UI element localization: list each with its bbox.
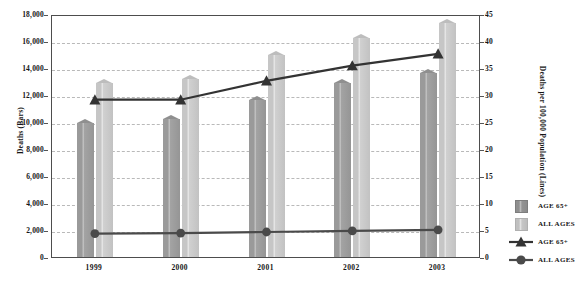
- legend-swatch-light-icon: [508, 216, 534, 232]
- bar[interactable]: [182, 75, 199, 257]
- bar[interactable]: [353, 34, 370, 257]
- legend-item-label: AGE 65+: [534, 238, 568, 246]
- legend-circle-marker-icon: [508, 252, 534, 268]
- y-left-tick-label: 2,000: [26, 227, 44, 235]
- legend-item-label: ALL AGES: [534, 220, 575, 228]
- bar-face: [439, 23, 456, 257]
- bar-group: [163, 16, 199, 257]
- swatch-square-icon: [515, 218, 528, 231]
- legend-item-label: AGE 65+: [534, 202, 568, 210]
- x-axis-labels: 19992000200120022003: [51, 263, 480, 277]
- plot-area: [51, 15, 480, 258]
- y-right-tick-label: 0: [485, 254, 489, 262]
- bar-face: [182, 79, 199, 257]
- bar[interactable]: [334, 79, 351, 257]
- y-right-tick-mark: [480, 177, 484, 178]
- y-left-tick-label: 12,000: [22, 92, 44, 100]
- y-axis-right-title: Deaths per 100,000 Population (Lines): [538, 42, 547, 222]
- legend-item[interactable]: ALL AGES: [508, 251, 584, 269]
- legend-triangle-marker-icon: [508, 234, 534, 250]
- y-left-tick-label: 8,000: [26, 146, 44, 154]
- y-right-tick-mark: [480, 15, 484, 16]
- legend-item[interactable]: AGE 65+: [508, 197, 584, 215]
- y-right-tick-label: 35: [485, 65, 493, 73]
- y-left-tick-label: 16,000: [22, 38, 44, 46]
- bar[interactable]: [163, 115, 180, 257]
- y-left-tick-label: 14,000: [22, 65, 44, 73]
- bar[interactable]: [96, 79, 113, 257]
- bar-group: [420, 16, 456, 257]
- y-left-tick-mark: [44, 96, 48, 97]
- chart-container: Deaths (Bars) Deaths per 100,000 Populat…: [0, 0, 584, 289]
- bar-group: [249, 16, 285, 257]
- x-axis-category-label: 2000: [171, 263, 188, 272]
- bar[interactable]: [268, 51, 285, 258]
- y-right-tick-mark: [480, 42, 484, 43]
- x-axis-category-label: 1999: [86, 263, 103, 272]
- x-axis-category-label: 2003: [429, 263, 446, 272]
- bar[interactable]: [439, 19, 456, 257]
- bar[interactable]: [77, 119, 94, 257]
- y-left-tick-mark: [44, 123, 48, 124]
- x-axis-category-label: 2001: [257, 263, 274, 272]
- triangle-line-icon: [508, 235, 534, 249]
- bar-face: [249, 100, 266, 257]
- y-left-tick-mark: [44, 231, 48, 232]
- bar-face: [268, 55, 285, 258]
- y-right-tick-mark: [480, 123, 484, 124]
- y-right-tick-mark: [480, 69, 484, 70]
- circle-line-icon: [508, 253, 534, 267]
- y-right-tick-label: 25: [485, 119, 493, 127]
- bar-face: [96, 83, 113, 257]
- y-left-tick-mark: [44, 42, 48, 43]
- y-left-tick-label: 18,000: [22, 11, 44, 19]
- y-right-tick-label: 45: [485, 11, 493, 19]
- y-right-tick-label: 30: [485, 92, 493, 100]
- legend-item[interactable]: AGE 65+: [508, 233, 584, 251]
- y-right-tick-label: 20: [485, 146, 493, 154]
- y-left-tick-mark: [44, 150, 48, 151]
- y-left-tick-mark: [44, 258, 48, 259]
- y-left-tick-label: 4,000: [26, 200, 44, 208]
- bar-face: [334, 83, 351, 257]
- y-right-tick-mark: [480, 96, 484, 97]
- bar-face: [353, 38, 370, 257]
- x-axis-category-label: 2002: [343, 263, 360, 272]
- bar-face: [77, 123, 94, 257]
- bar-face: [420, 73, 437, 257]
- legend-item[interactable]: ALL AGES: [508, 215, 584, 233]
- swatch-square-icon: [515, 200, 528, 213]
- y-left-tick-mark: [44, 15, 48, 16]
- bar-group: [77, 16, 113, 257]
- y-axis-left-ticks: 02,0004,0006,0008,00010,00012,00014,0001…: [4, 0, 48, 289]
- y-right-tick-mark: [480, 150, 484, 151]
- y-right-tick-label: 40: [485, 38, 493, 46]
- y-right-tick-label: 15: [485, 173, 493, 181]
- bar[interactable]: [420, 69, 437, 257]
- y-left-tick-label: 6,000: [26, 173, 44, 181]
- y-left-tick-label: 10,000: [22, 119, 44, 127]
- y-right-tick-mark: [480, 258, 484, 259]
- y-right-tick-mark: [480, 231, 484, 232]
- chart-legend: AGE 65+ALL AGESAGE 65+ALL AGES: [508, 197, 584, 269]
- bar-group: [334, 16, 370, 257]
- y-left-tick-mark: [44, 69, 48, 70]
- y-right-tick-label: 5: [485, 227, 489, 235]
- y-left-tick-mark: [44, 177, 48, 178]
- bar-face: [163, 119, 180, 257]
- y-right-tick-mark: [480, 204, 484, 205]
- legend-swatch-dark-icon: [508, 198, 534, 214]
- bar[interactable]: [249, 96, 266, 257]
- y-left-tick-mark: [44, 204, 48, 205]
- legend-item-label: ALL AGES: [534, 256, 575, 264]
- y-right-tick-label: 10: [485, 200, 493, 208]
